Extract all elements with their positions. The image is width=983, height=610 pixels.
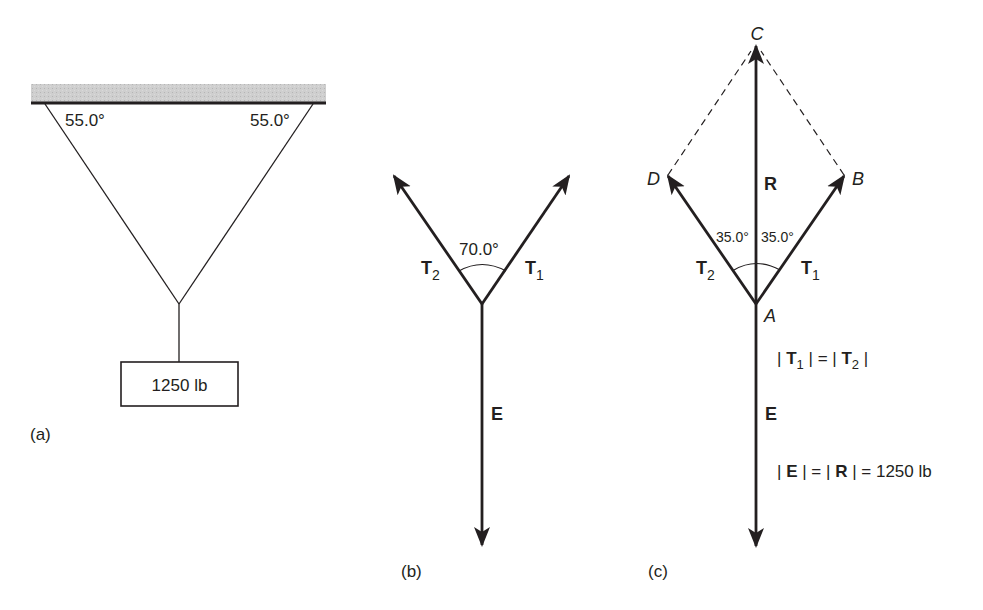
e-label: E: [491, 404, 503, 424]
equation-e-equals-r: | E | = | R | = 1250 lb: [777, 462, 932, 481]
panel-c: C D B A R 35.0° 35.0° T2 T1 | T1 | = | T…: [647, 24, 932, 581]
left-angle-label: 35.0°: [716, 229, 749, 245]
equation-t1-equals-t2: | T1 | = | T2 |: [777, 349, 868, 372]
r-label: R: [764, 174, 777, 194]
panel-b: 70.0° T2 T1 E (b): [394, 176, 569, 581]
right-cable: [179, 104, 313, 304]
point-a-label: A: [763, 306, 776, 326]
dashed-bc: [761, 51, 844, 175]
weight-label: 1250 lb: [152, 376, 208, 395]
left-angle-label: 55.0°: [65, 111, 105, 130]
dashed-dc: [668, 51, 751, 175]
right-angle-label: 35.0°: [761, 229, 794, 245]
point-b-label: B: [852, 169, 864, 189]
point-d-label: D: [647, 169, 660, 189]
left-cable: [45, 104, 179, 304]
caption-b: (b): [401, 562, 422, 581]
caption-a: (a): [30, 425, 51, 444]
t1-label: T1: [801, 258, 820, 283]
angle-arc: [459, 265, 506, 272]
point-c-label: C: [751, 24, 765, 44]
panel-a: 1250 lb 55.0° 55.0° (a): [30, 84, 326, 444]
t2-label: T2: [696, 258, 715, 283]
right-angle-label: 55.0°: [250, 111, 290, 130]
force-diagram-canvas: 1250 lb 55.0° 55.0° (a) 70.0° T2 T1 E (b…: [0, 0, 983, 610]
e-label: E: [765, 404, 777, 424]
ceiling: [31, 84, 326, 102]
caption-c: (c): [648, 562, 668, 581]
t1-label: T1: [525, 258, 544, 283]
t2-label: T2: [421, 258, 440, 283]
angle-label: 70.0°: [459, 240, 499, 259]
